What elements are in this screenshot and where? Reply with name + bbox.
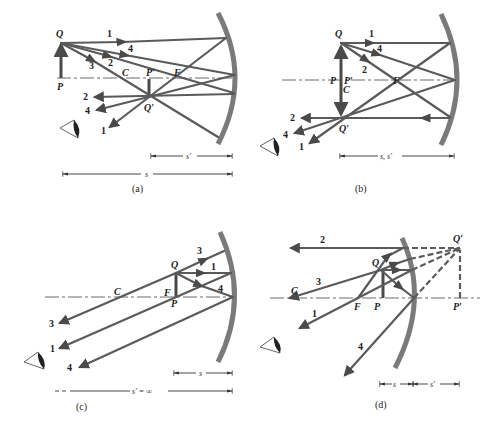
out-label-4: 4 <box>358 341 363 352</box>
ray-label-4: 4 <box>377 43 382 54</box>
out-label-4: 4 <box>283 129 288 140</box>
ray-label-4: 4 <box>128 43 133 54</box>
ray-label-1: 1 <box>369 28 374 39</box>
label-Q-prime: Q′ <box>453 233 463 244</box>
label-C: C <box>343 84 350 95</box>
ray-3-reflected <box>60 273 176 323</box>
ray-label-1: 1 <box>107 28 112 39</box>
svg-text:s: s <box>199 369 202 378</box>
ray-label-3: 3 <box>197 245 202 256</box>
ray-1-virtual <box>412 248 460 270</box>
eye-icon <box>260 138 279 156</box>
label-C: C <box>291 285 298 296</box>
ray-2-reflected <box>95 94 234 97</box>
panel-a: Q P C F P′ Q′ 1 2 3 4 2 4 1 s′ s (a) <box>56 13 236 195</box>
label-C: C <box>122 67 129 78</box>
label-Q-prime: Q′ <box>339 123 349 134</box>
ray-label-3: 3 <box>89 60 94 71</box>
ray-4-reflected <box>80 297 233 367</box>
panel-c: Q P F C 3 1 4 3 1 4 s s′ = ∞ (c) <box>24 232 235 413</box>
svg-text:s, s′: s, s′ <box>380 152 392 161</box>
label-P: P <box>171 298 178 309</box>
label-P: P <box>57 81 64 92</box>
out-label-4: 4 <box>85 105 90 116</box>
caption-c: (c) <box>76 401 87 413</box>
label-C: C <box>114 286 121 297</box>
out-label-1: 1 <box>50 343 55 354</box>
out-label-3: 3 <box>316 276 321 287</box>
mirror-ray-diagrams: Q P C F P′ Q′ 1 2 3 4 2 4 1 s′ s (a) <box>0 0 490 431</box>
label-Q: Q <box>171 259 178 270</box>
svg-text:s: s <box>145 170 148 179</box>
svg-text:s′: s′ <box>186 152 191 161</box>
label-F: F <box>392 75 400 86</box>
svg-text:s: s <box>393 380 396 389</box>
ray-4-reflected <box>295 80 455 133</box>
ray-label-4: 4 <box>218 283 223 294</box>
svg-text:s′ = ∞: s′ = ∞ <box>132 387 152 396</box>
ray-1-reflected <box>310 43 450 143</box>
ray-1-incident <box>61 38 226 43</box>
out-label-1: 1 <box>299 141 304 152</box>
convex-mirror <box>395 238 414 368</box>
out-label-2: 2 <box>83 91 88 102</box>
label-P-prime: P′ <box>146 67 155 78</box>
out-label-4: 4 <box>67 362 72 373</box>
ray-label-2: 2 <box>362 64 367 75</box>
label-Q-prime: Q′ <box>144 102 154 113</box>
out-label-1: 1 <box>312 308 317 319</box>
panel-b: Q P P′ C F Q′ 1 4 2 2 4 1 s, s′ (b) <box>260 14 457 195</box>
out-label-2: 2 <box>320 234 325 245</box>
caption-a: (a) <box>132 183 143 195</box>
label-Q: Q <box>335 28 342 39</box>
label-Q: Q <box>372 257 379 268</box>
ray-label-2: 2 <box>108 57 113 68</box>
panel-d: Q P F C Q′ P′ 2 3 1 4 s s′ (d) <box>260 233 480 411</box>
label-P: P <box>374 301 381 312</box>
eye-icon <box>60 120 79 138</box>
svg-text:s′: s′ <box>430 380 435 389</box>
eye-icon <box>24 352 45 369</box>
label-F: F <box>173 67 181 78</box>
caption-d: (d) <box>375 399 387 411</box>
label-Q: Q <box>56 28 63 39</box>
label-F: F <box>163 287 171 298</box>
out-label-1: 1 <box>101 125 106 136</box>
ray-label-1: 1 <box>211 261 216 272</box>
ray-2-incident <box>358 248 403 298</box>
caption-b: (b) <box>355 183 367 195</box>
out-label-2: 2 <box>290 112 295 123</box>
label-F: F <box>353 301 361 312</box>
label-P: P <box>330 75 337 86</box>
eye-icon <box>260 337 281 353</box>
label-P-prime: P′ <box>453 301 462 312</box>
out-label-3: 3 <box>49 318 54 329</box>
